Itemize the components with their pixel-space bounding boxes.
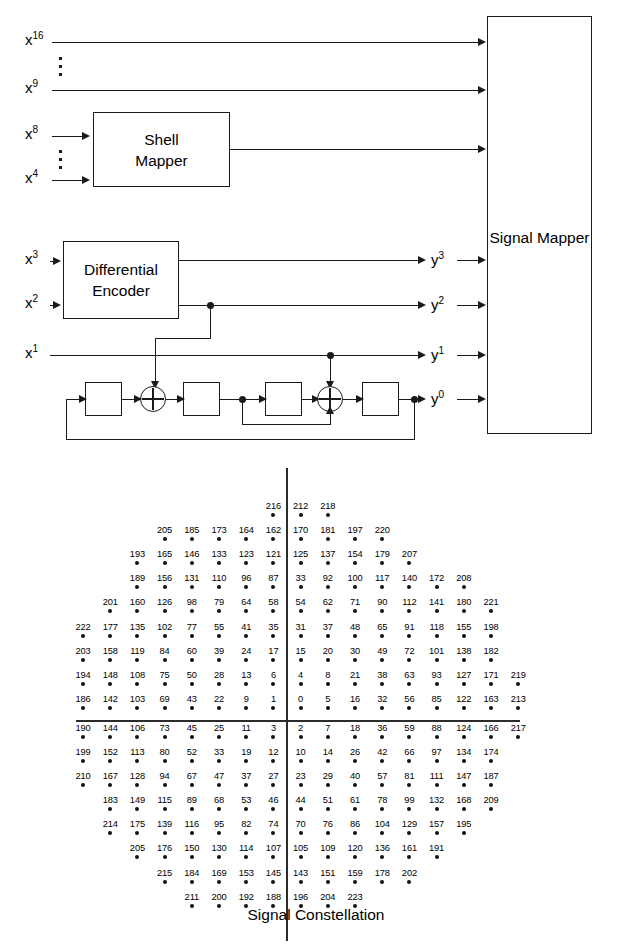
constellation-point-label: 90: [377, 598, 387, 607]
arrow-y1: [418, 351, 426, 359]
constellation-point-label: 138: [456, 646, 471, 655]
constellation-point-label: 78: [377, 796, 387, 805]
constellation-point: [190, 759, 194, 763]
constellation-point-label: 103: [130, 695, 145, 704]
constellation-point: [299, 585, 303, 589]
constellation-point-label: 63: [404, 670, 414, 679]
constellation-point-label: 204: [320, 892, 335, 901]
constellation-point: [190, 609, 194, 613]
constellation-point-label: 97: [432, 748, 442, 757]
constellation-point: [380, 855, 384, 859]
constellation-point-label: 199: [75, 748, 90, 757]
constellation-point: [163, 706, 167, 710]
constellation-point-label: 94: [160, 772, 170, 781]
constellation-point-label: 146: [184, 550, 199, 559]
constellation-point: [380, 561, 384, 565]
arrow-xor1-d2: [177, 395, 185, 403]
constellation-point-label: 191: [429, 844, 444, 853]
constellation-point: [299, 706, 303, 710]
constellation-point: [435, 831, 439, 835]
constellation-point-label: 38: [377, 670, 387, 679]
constellation-point-label: 37: [241, 772, 251, 781]
constellation-point-label: 205: [157, 526, 172, 535]
constellation-point: [489, 759, 493, 763]
constellation-point: [108, 831, 112, 835]
constellation-point: [271, 585, 275, 589]
constellation-point: [489, 609, 493, 613]
constellation-point-label: 99: [404, 796, 414, 805]
constellation-point-label: 192: [239, 892, 254, 901]
constellation-point: [190, 706, 194, 710]
constellation-point: [353, 855, 357, 859]
constellation-point-label: 222: [75, 622, 90, 631]
constellation-point-label: 84: [160, 646, 170, 655]
constellation-point-label: 139: [157, 820, 172, 829]
constellation-point-label: 24: [241, 646, 251, 655]
constellation-point-label: 26: [350, 748, 360, 757]
constellation-point-label: 207: [402, 550, 417, 559]
constellation-point-label: 136: [375, 844, 390, 853]
constellation-point: [244, 658, 248, 662]
constellation-point-label: 11: [242, 724, 251, 733]
constellation-point: [271, 706, 275, 710]
constellation-point-label: 124: [456, 724, 471, 733]
arrow-y0-mapper: [478, 395, 486, 403]
constellation-point: [190, 855, 194, 859]
constellation-point-label: 17: [268, 646, 278, 655]
constellation-point: [435, 634, 439, 638]
constellation-point: [190, 561, 194, 565]
constellation-point-label: 171: [483, 670, 498, 679]
constellation-point: [380, 759, 384, 763]
constellation-point: [271, 658, 275, 662]
constellation-point: [244, 735, 248, 739]
constellation-point-label: 2: [298, 724, 303, 733]
constellation-point-label: 162: [266, 526, 281, 535]
figure-root: Signal Mapper Shell Mapper Differential …: [0, 0, 632, 946]
constellation-point-label: 214: [103, 820, 118, 829]
constellation-point-label: 205: [130, 844, 145, 853]
constellation-point: [516, 682, 520, 686]
wire-outer-feedback: [66, 439, 415, 440]
constellation-horizontal-axis: [76, 720, 520, 722]
constellation-point-label: 70: [296, 820, 306, 829]
constellation-point: [299, 634, 303, 638]
constellation-point: [163, 759, 167, 763]
constellation-point: [380, 783, 384, 787]
wire-y2: [179, 305, 419, 306]
constellation-point: [163, 682, 167, 686]
constellation-point: [407, 735, 411, 739]
constellation-point-label: 175: [130, 820, 145, 829]
constellation-point-label: 7: [325, 724, 330, 733]
constellation-point: [380, 682, 384, 686]
constellation-point: [135, 634, 139, 638]
constellation-point: [462, 807, 466, 811]
constellation-point-label: 202: [402, 868, 417, 877]
constellation-point: [299, 759, 303, 763]
constellation-point: [435, 585, 439, 589]
constellation-point: [407, 658, 411, 662]
constellation-point-label: 127: [456, 670, 471, 679]
constellation-point: [380, 880, 384, 884]
constellation-point: [407, 585, 411, 589]
constellation-point-label: 45: [187, 724, 197, 733]
constellation-point: [271, 759, 275, 763]
constellation-point-label: 144: [103, 724, 118, 733]
input-label-x3: x3: [25, 251, 38, 266]
constellation-point: [244, 585, 248, 589]
constellation-point: [135, 735, 139, 739]
arrow-y3-mapper: [478, 256, 486, 264]
constellation-point-label: 189: [130, 574, 145, 583]
constellation-point-label: 67: [187, 772, 197, 781]
delay-block-1: [85, 382, 122, 416]
constellation-point: [462, 585, 466, 589]
constellation-point: [81, 706, 85, 710]
delay-block-3: [265, 382, 302, 416]
constellation-point-label: 13: [241, 670, 251, 679]
constellation-point: [135, 609, 139, 613]
constellation-point: [244, 682, 248, 686]
constellation-point-label: 32: [377, 695, 387, 704]
differential-encoder-block: Differential Encoder: [63, 241, 179, 319]
constellation-point-label: 68: [214, 796, 224, 805]
input-label-x2: x2: [25, 295, 38, 310]
constellation-point-label: 119: [130, 646, 144, 655]
